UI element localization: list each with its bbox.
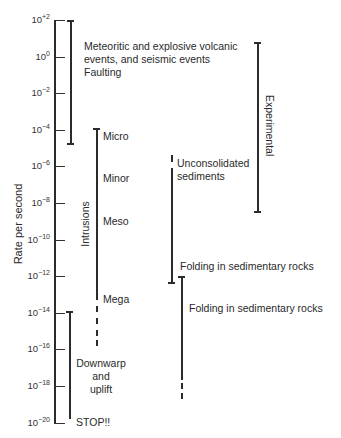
tick-base: 10 — [31, 197, 42, 208]
unconsolidated-range-bar — [171, 168, 173, 282]
downwarp-range-cap-top — [66, 311, 73, 313]
folding-lower-label: Folding in sedimentary rocks — [189, 302, 323, 315]
meteoritic-label-line2: events, and seismic events — [84, 53, 238, 66]
y-axis-tick-label: 10−20 — [14, 416, 50, 428]
y-axis-tick-label: 10−16 — [14, 342, 50, 354]
folding-lower-dash-1 — [181, 383, 183, 389]
intrusions-meso-label: Meso — [103, 215, 129, 228]
y-axis-tick-label: 10−12 — [14, 269, 50, 281]
tick-exponent: −2 — [42, 86, 50, 93]
y-axis-tick — [55, 313, 65, 314]
meteoritic-label: Meteoritic and explosive volcanic events… — [84, 40, 238, 79]
downwarp-label-line3: uplift — [76, 383, 126, 396]
intrusions-dash-4 — [96, 340, 98, 346]
experimental-range-cap-bottom — [254, 211, 261, 213]
tick-exponent: −8 — [42, 196, 50, 203]
y-axis-tick-label: 10−14 — [14, 306, 50, 318]
y-axis-tick — [55, 20, 65, 21]
y-axis-tick-label: 10−4 — [14, 123, 50, 135]
intrusions-range-cap-top — [93, 128, 100, 130]
meteoritic-range-cap-top — [67, 20, 74, 22]
tick-exponent: −14 — [38, 306, 50, 313]
tick-exponent: −6 — [42, 159, 50, 166]
y-axis-tick — [55, 349, 65, 350]
tick-base: 10 — [31, 124, 42, 135]
tick-exponent: −20 — [38, 416, 50, 423]
experimental-label: Experimental — [264, 95, 276, 156]
tick-exponent: −4 — [42, 123, 50, 130]
y-axis-tick — [55, 386, 65, 387]
tick-base: 10 — [31, 160, 42, 171]
y-axis-tick-label: 10−18 — [14, 379, 50, 391]
unconsolidated-label-line2: sediments — [177, 170, 249, 183]
intrusions-mega-label: Mega — [103, 293, 129, 306]
y-axis-tick — [55, 240, 65, 241]
intrusions-dash-3 — [96, 330, 98, 336]
y-axis-tick — [55, 423, 65, 424]
downwarp-range-bar — [69, 311, 71, 419]
y-axis-tick-label: 10−6 — [14, 159, 50, 171]
tick-exponent: +2 — [42, 13, 50, 20]
experimental-range-bar — [257, 42, 259, 212]
folding-lower-dash-2 — [181, 393, 183, 399]
intrusions-group-label: Intrusions — [79, 201, 91, 247]
intrusions-dash-1 — [96, 306, 98, 312]
y-axis-tick-label: 100 — [14, 50, 50, 62]
meteoritic-range-bar — [70, 20, 72, 144]
tick-exponent: −18 — [38, 379, 50, 386]
y-axis-tick-label: 10−10 — [14, 233, 50, 245]
experimental-range-cap-top — [254, 42, 261, 44]
intrusions-minor-label: Minor — [103, 172, 129, 185]
faulting-label: Faulting — [84, 66, 238, 79]
tick-base: 10 — [31, 87, 42, 98]
tick-base: 10 — [28, 380, 39, 391]
unconsolidated-label-line1: Unconsolidated — [177, 157, 249, 170]
stop-label: STOP!! — [76, 416, 110, 429]
tick-exponent: −12 — [38, 269, 50, 276]
folding-upper-label: Folding in sedimentary rocks — [180, 260, 314, 273]
tick-exponent: −16 — [38, 342, 50, 349]
y-axis-tick — [55, 276, 65, 277]
cropped-caption-remnant — [0, 0, 341, 4]
folding-lower-range-cap-top — [178, 276, 185, 278]
y-axis-tick-label: 10−2 — [14, 86, 50, 98]
downwarp-label-line2: and — [76, 370, 126, 383]
downwarp-label-line1: Downwarp — [76, 357, 126, 370]
tick-base: 10 — [36, 51, 47, 62]
intrusions-range-bar — [96, 128, 98, 300]
downwarp-label: Downwarp and uplift — [76, 357, 126, 396]
folding-lower-range-bar — [181, 276, 183, 380]
y-axis-tick — [55, 93, 65, 94]
unconsolidated-label: Unconsolidated sediments — [177, 157, 249, 183]
y-axis-tick — [55, 130, 65, 131]
tick-exponent: 0 — [46, 50, 50, 57]
tick-base: 10 — [28, 343, 39, 354]
tick-base: 10 — [28, 270, 39, 281]
meteoritic-label-line1: Meteoritic and explosive volcanic — [84, 40, 238, 53]
tick-exponent: −10 — [38, 233, 50, 240]
tick-base: 10 — [31, 14, 42, 25]
y-axis-tick — [55, 166, 65, 167]
intrusions-micro-label: Micro — [103, 130, 129, 143]
y-axis-tick — [55, 57, 65, 58]
unconsolidated-dash — [171, 155, 173, 162]
intrusions-dash-2 — [96, 318, 98, 324]
y-axis-tick — [55, 203, 65, 204]
y-axis-tick-label: 10−8 — [14, 196, 50, 208]
y-axis-line — [54, 20, 56, 424]
y-axis-tick-label: 10+2 — [14, 13, 50, 25]
tick-base: 10 — [28, 234, 39, 245]
unconsolidated-range-cap-bottom — [168, 282, 175, 284]
meteoritic-range-cap-bottom — [67, 143, 74, 145]
tick-base: 10 — [28, 417, 39, 428]
tick-base: 10 — [28, 307, 39, 318]
